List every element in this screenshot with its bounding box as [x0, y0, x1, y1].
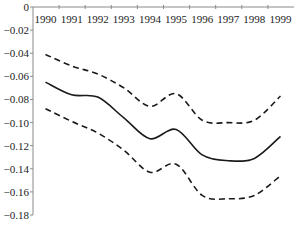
x-tick-label: 1994 [139, 13, 162, 25]
series-group [46, 54, 281, 199]
x-tick-label: 1990 [35, 13, 58, 25]
y-tick-label: 0 [24, 1, 30, 13]
x-tick-label: 1999 [269, 13, 292, 25]
y-axis: 0−0.02−0.04−0.06−0.08−0.10−0.12−0.14−0.1… [4, 1, 33, 221]
y-tick-label: −0.10 [4, 117, 30, 129]
series-line-upper-bound [46, 54, 281, 123]
x-tick-label: 1992 [87, 13, 109, 25]
y-tick-label: −0.12 [4, 140, 29, 152]
x-tick-label: 1995 [165, 13, 188, 25]
y-tick-label: −0.02 [4, 24, 29, 36]
line-chart: 0−0.02−0.04−0.06−0.08−0.10−0.12−0.14−0.1… [0, 0, 294, 230]
series-line-lower-bound [46, 109, 281, 200]
y-tick-label: −0.06 [4, 70, 30, 82]
x-tick-label: 1996 [191, 13, 214, 25]
x-tick-label: 1997 [217, 13, 240, 25]
y-tick-label: −0.18 [4, 209, 30, 221]
y-tick-label: −0.04 [4, 47, 30, 59]
x-tick-label: 1993 [113, 13, 136, 25]
y-tick-label: −0.14 [4, 163, 30, 175]
x-tick-label: 1998 [243, 13, 266, 25]
x-tick-label: 1991 [61, 13, 83, 25]
y-tick-label: −0.16 [4, 186, 30, 198]
series-line-estimate [46, 82, 281, 161]
x-axis: 1990199119921993199419951996199719981999 [33, 5, 294, 25]
y-tick-label: −0.08 [4, 93, 30, 105]
